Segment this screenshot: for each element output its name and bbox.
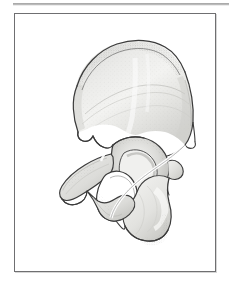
illustration-canvas	[15, 14, 215, 271]
top-divider-rule-shadow	[13, 5, 229, 6]
region-ilium	[65, 34, 205, 154]
page-canvas	[0, 0, 229, 286]
hip-bone-illustration	[15, 14, 215, 271]
ischial-spine-outline	[168, 160, 183, 179]
region-ischial-spine	[168, 160, 184, 195]
illustration-frame	[14, 13, 216, 272]
